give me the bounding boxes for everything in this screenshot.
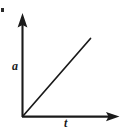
y-axis-label: a bbox=[12, 60, 18, 72]
graph-figure: a t bbox=[0, 0, 122, 131]
scan-speck bbox=[1, 8, 4, 12]
graph-canvas bbox=[0, 0, 122, 131]
x-axis-label: t bbox=[64, 117, 67, 129]
data-line-a-vs-t bbox=[23, 39, 91, 117]
